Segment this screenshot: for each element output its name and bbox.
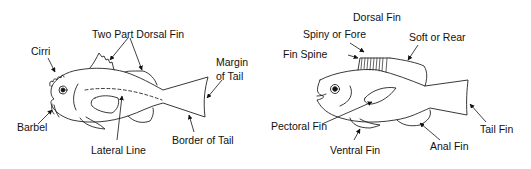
label-cirri: Cirri: [31, 45, 50, 57]
label-anal-fin: Anal Fin: [430, 140, 469, 152]
label-pectoral-fin: Pectoral Fin: [271, 120, 327, 132]
label-barbel: Barbel: [17, 121, 47, 133]
label-margin-of-tail-line2: of Tail: [216, 70, 243, 82]
label-spiny-or-fore: Spiny or Fore: [303, 28, 366, 40]
fish-anatomy-diagram: Two Part Dorsal Fin Cirri Margin of Tail…: [0, 0, 531, 169]
right-fish: [317, 58, 468, 128]
label-margin-of-tail-line1: Margin: [216, 56, 248, 68]
label-two-part-dorsal-fin: Two Part Dorsal Fin: [92, 28, 184, 40]
label-lateral-line: Lateral Line: [91, 144, 146, 156]
label-dorsal-fin: Dorsal Fin: [353, 11, 401, 23]
label-fin-spine: Fin Spine: [283, 48, 327, 60]
label-border-of-tail: Border of Tail: [172, 134, 234, 146]
label-ventral-fin: Ventral Fin: [330, 144, 380, 156]
label-soft-or-rear: Soft or Rear: [409, 31, 466, 43]
left-fish: [50, 53, 208, 129]
label-tail-fin: Tail Fin: [480, 123, 513, 135]
